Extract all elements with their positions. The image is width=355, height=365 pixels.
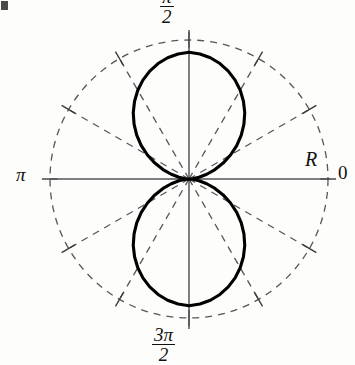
angle-label-zero: 0	[338, 162, 348, 184]
angle-tick-30deg	[303, 105, 317, 113]
angle-tick-300deg	[255, 293, 263, 307]
angle-label-3pi-over-2: 3π 2	[152, 325, 175, 364]
radial-gridline-210deg	[69, 179, 189, 249]
angle-tick-210deg	[62, 245, 76, 253]
radial-gridline-30deg	[189, 110, 309, 180]
angle-label-3pi-over-2-numerator: 3π	[152, 325, 175, 345]
angle-label-pi: π	[16, 164, 26, 186]
angle-label-3pi-over-2-denominator: 2	[152, 345, 175, 364]
angle-tick-150deg	[62, 105, 76, 113]
radial-axis-label: R	[305, 148, 317, 171]
radial-gridline-330deg	[189, 179, 309, 249]
angle-tick-330deg	[303, 245, 317, 253]
angle-tick-240deg	[115, 293, 123, 307]
angle-label-pi-over-2: π 2	[160, 0, 174, 26]
angle-tick-120deg	[115, 52, 123, 66]
radial-gridline-150deg	[69, 110, 189, 180]
angle-label-pi-over-2-denominator: 2	[160, 7, 174, 26]
angle-tick-60deg	[255, 52, 263, 66]
